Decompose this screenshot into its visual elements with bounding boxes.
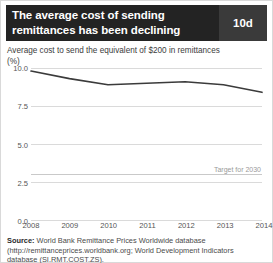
y-axis-tick-label: 5.0 [17,140,28,149]
x-axis-tick-label: 2013 [217,221,234,230]
x-axis-tick-label: 2008 [23,221,40,230]
figure-title: The average cost of sending remittances … [6,5,219,41]
y-axis-tick-label: 7.5 [17,102,28,111]
x-axis-tick-label: 2014 [256,221,273,230]
series-line-chart [31,68,262,220]
chart-subtitle: Average cost to send the equivalent of $… [7,46,266,56]
y-axis-tick-label: 2.5 [17,178,28,187]
x-axis-tick-label: 2012 [178,221,195,230]
series-line [31,71,262,92]
x-axis-tick-label: 2010 [100,221,117,230]
x-axis-tick-label: 2011 [139,221,155,230]
plot-area: 0.02.55.07.510.0 Target for 2030 [7,68,264,220]
x-axis-labels: 2008200920102011201220132014 [31,220,264,233]
figure-title-line1: The average cost of sending [12,9,165,21]
figure-header: The average cost of sending remittances … [6,5,267,41]
chart-figure: The average cost of sending remittances … [0,0,273,263]
x-axis-tick-label: 2009 [61,221,78,230]
figure-number-badge: 10d [219,5,267,41]
y-axis-unit-label: (%) [7,57,266,66]
plot-canvas: 0.02.55.07.510.0 Target for 2030 [31,68,262,220]
figure-title-line2: remittances has been declining [12,23,215,38]
source-text: World Bank Remittance Prices Worldwide d… [7,236,234,263]
source-note: Source: World Bank Remittance Prices Wor… [7,236,266,263]
y-axis-tick-label: 10.0 [13,64,28,73]
source-label: Source: [7,236,35,245]
